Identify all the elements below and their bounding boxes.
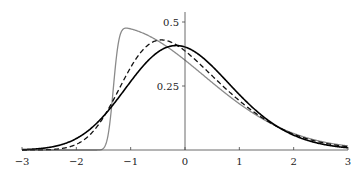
x-tick-label: 3 [345,156,351,167]
x-tick-label: −1 [123,156,138,167]
x-tick-label: −2 [69,156,84,167]
density-chart: −3−2−101230.250.5 [0,0,356,177]
x-tick-label: 0 [182,156,188,167]
x-tick-label: −3 [15,156,30,167]
x-tick-label: 2 [290,156,296,167]
y-tick-label: 0.25 [157,81,179,92]
y-tick-label: 0.5 [163,17,179,28]
x-tick-label: 1 [236,156,242,167]
